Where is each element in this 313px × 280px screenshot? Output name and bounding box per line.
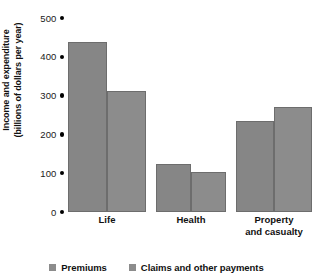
category-label-life: Life [68, 214, 146, 226]
dot-marker-icon [60, 171, 65, 176]
y-axis-title: Income and expenditure (billions of doll… [1, 0, 37, 165]
y-axis-tick-500: 500 [40, 12, 64, 24]
bar-group-health [156, 14, 226, 212]
y-axis-tick-label: 200 [40, 129, 56, 140]
y-axis-tick-label: 0 [51, 207, 56, 218]
y-axis-tick-label: 500 [40, 13, 56, 24]
dot-marker-icon [60, 210, 65, 215]
bar-group-life [68, 14, 146, 212]
dot-marker-icon [60, 93, 65, 98]
category-label-line: Health [156, 214, 226, 226]
y-axis-tick-0: 0 [51, 206, 64, 218]
legend-item-label: Claims and other payments [141, 262, 264, 273]
plot-area [68, 14, 313, 212]
y-axis-tick-300: 300 [40, 90, 64, 102]
category-label-health: Health [156, 214, 226, 226]
y-axis-title-line-1: Income and expenditure [1, 0, 13, 165]
dot-marker-icon [60, 16, 65, 21]
category-label-line: and casualty [230, 226, 313, 238]
bar-health-premiums [156, 164, 191, 212]
y-axis-tick-400: 400 [40, 51, 64, 63]
y-axis-title-line-2: (billions of dollars per year) [13, 0, 25, 165]
y-axis-tick-label: 100 [40, 168, 56, 179]
y-axis-tick-label: 300 [40, 90, 56, 101]
category-label-line: Property [230, 214, 313, 226]
legend-item-premiums[interactable]: Premiums [49, 262, 107, 273]
square-swatch-icon [129, 264, 136, 271]
x-axis-category-labels: Life Health Property and casualty [68, 214, 313, 248]
bar-chart-figure: Income and expenditure (billions of doll… [0, 0, 313, 280]
bar-health-claims [191, 172, 226, 212]
dot-marker-icon [60, 132, 65, 137]
category-label-property-and-casualty: Property and casualty [230, 214, 313, 237]
square-swatch-icon [49, 264, 56, 271]
y-axis: 500 400 300 200 100 0 [38, 0, 64, 280]
y-axis-tick-label: 400 [40, 51, 56, 62]
bar-life-claims [107, 91, 146, 212]
legend-item-claims-and-other-payments[interactable]: Claims and other payments [129, 262, 264, 273]
y-axis-tick-200: 200 [40, 128, 64, 140]
bar-group-property [236, 14, 312, 212]
bar-property-claims [274, 107, 312, 212]
bar-life-premiums [68, 42, 107, 212]
y-axis-tick-100: 100 [40, 167, 64, 179]
bar-property-premiums [236, 121, 274, 212]
chart-legend: Premiums Claims and other payments [0, 258, 313, 276]
dot-marker-icon [60, 55, 65, 60]
category-label-line: Life [68, 214, 146, 226]
legend-item-label: Premiums [61, 262, 107, 273]
